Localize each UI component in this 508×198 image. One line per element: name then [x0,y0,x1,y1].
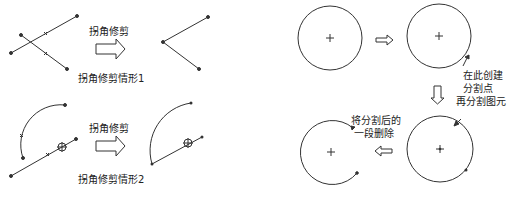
case1-before-lines [10,15,79,71]
diagram-canvas [0,0,508,198]
case2-after-geometry [150,103,202,164]
annotation-create-split-point-line2: 分割点 [463,83,493,95]
annotation-delete-segment-line1: 将分割后的 [351,115,401,127]
arc-after-deletion [300,121,357,185]
circle-with-split-point [407,4,471,68]
annotation-create-split-point-line1: 在此创建 [463,70,503,82]
annotation-delete-segment-line2: 一段删除 [354,128,394,140]
case1-caption: 拐角修剪情形1 [78,73,144,85]
case1-right-arrow-icon [96,39,125,59]
case2-arrow-label: 拐角修剪 [89,123,129,135]
case2-caption: 拐角修剪情形2 [78,174,144,186]
case1-after-lines [162,16,210,71]
case1-arrow-label: 拐角修剪 [89,26,129,38]
case2-right-arrow-icon [96,136,125,156]
case2-before-geometry [11,105,76,176]
split-step-left-arrow-icon [375,146,392,156]
annotation-split-entity: 再分割图元 [456,96,506,108]
split-step-down-arrow-icon [431,86,444,104]
case2-before-snap-target-icon [57,142,67,152]
split-step-right-arrow-icon [376,35,393,45]
circle-original [298,6,362,70]
